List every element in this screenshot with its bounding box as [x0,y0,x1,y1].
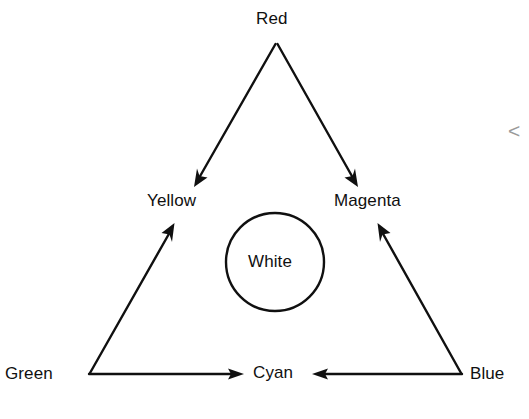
edge-label-yellow: Yellow [147,191,196,211]
arrow-green-to-yellow [90,223,175,373]
diagram-canvas [0,0,529,419]
vertex-label-green: Green [5,364,53,384]
center-label-white: White [248,252,292,272]
vertex-label-blue: Blue [470,364,504,384]
arrow-red-to-yellow [194,44,276,187]
color-triangle-diagram: Red Green Blue Yellow Magenta Cyan White… [0,0,529,419]
edge-label-cyan: Cyan [253,363,293,383]
arrow-green-to-cyan [89,369,244,380]
arrow-red-to-magenta [278,44,359,187]
margin-chevron-icon: < [508,120,528,142]
vertex-label-red: Red [256,9,288,29]
arrow-blue-to-magenta [378,223,462,373]
edge-label-magenta: Magenta [334,191,401,211]
arrow-blue-to-cyan [312,369,462,380]
